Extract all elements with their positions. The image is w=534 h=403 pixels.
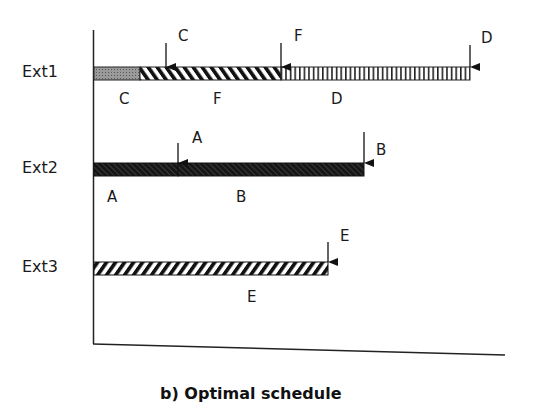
row-label-ext1: Ext1 [22, 64, 58, 80]
figure-caption: b) Optimal schedule [160, 384, 341, 403]
ext1-timeline [94, 43, 470, 80]
arrow-label-d: D [481, 31, 493, 46]
row-label-ext2: Ext2 [22, 160, 58, 176]
segment-label-c: C [119, 92, 129, 107]
segment-label-d: D [331, 92, 343, 107]
segment-b [178, 163, 364, 176]
segment-c [94, 67, 140, 80]
arrow-label-c: C [178, 29, 188, 44]
segment-label-f: F [213, 92, 222, 107]
arrow-label-a: A [192, 131, 202, 146]
arrow-label-e: E [340, 229, 349, 244]
segment-label-b: B [236, 190, 246, 205]
arrow-label-b: B [376, 143, 386, 158]
segment-f [140, 67, 281, 80]
segment-a [94, 163, 178, 176]
x-axis [93, 344, 505, 355]
arrow-label-f: F [294, 29, 303, 44]
ext3-timeline [94, 242, 328, 275]
segment-d [281, 67, 470, 80]
segment-e [94, 262, 328, 275]
row-label-ext3: Ext3 [22, 259, 58, 275]
segment-label-e: E [247, 290, 256, 305]
ext2-timeline [94, 132, 364, 176]
segment-label-a: A [107, 190, 117, 205]
